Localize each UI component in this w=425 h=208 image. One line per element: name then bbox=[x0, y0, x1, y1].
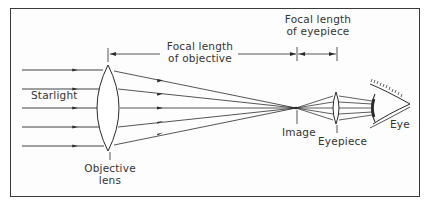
objective-line1: Objective bbox=[80, 162, 140, 174]
focal-eyepiece-line1: Focal length bbox=[280, 13, 356, 25]
converging-rays bbox=[114, 71, 296, 145]
objective-lens-label: Objective lens bbox=[80, 162, 140, 186]
eye-label: Eye bbox=[390, 118, 410, 130]
image-point bbox=[295, 107, 298, 110]
starlight-rays bbox=[22, 70, 104, 146]
starlight-label: Starlight bbox=[31, 89, 78, 101]
focal-length-objective-label: Focal length of objective bbox=[162, 40, 238, 64]
eyepiece-lens bbox=[333, 92, 339, 124]
telescope-diagram bbox=[0, 0, 425, 208]
objective-line2: lens bbox=[80, 174, 140, 186]
focal-eyepiece-line2: of eyepiece bbox=[280, 25, 356, 37]
eyepiece-label: Eyepiece bbox=[318, 135, 367, 147]
image-label: Image bbox=[282, 126, 316, 138]
focal-objective-line2: of objective bbox=[162, 52, 238, 64]
objective-lens bbox=[97, 65, 119, 151]
focal-length-eyepiece-label: Focal length of eyepiece bbox=[280, 13, 356, 37]
focal-objective-line1: Focal length bbox=[162, 40, 238, 52]
